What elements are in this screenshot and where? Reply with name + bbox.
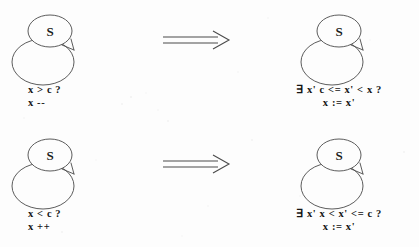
- automaton-rhs: S ∃ x' x < x' <= c ? x := x': [259, 124, 419, 247]
- automaton-rhs: S ∃ x' c <= x' < x ? x := x': [259, 0, 419, 123]
- action-text: x := x': [259, 221, 419, 234]
- transition-annotation: x < c ? x ++: [28, 208, 61, 233]
- state-label: S: [329, 24, 349, 40]
- implies-arrow: [163, 152, 231, 178]
- transition-annotation: x > c ? x --: [28, 84, 61, 109]
- transition-annotation: ∃ x' c <= x' < x ? x := x': [259, 84, 419, 109]
- state-label: S: [40, 24, 60, 40]
- state-label: S: [40, 148, 60, 164]
- guard-text: ∃ x' c <= x' < x ?: [259, 84, 419, 97]
- action-text: x := x': [259, 97, 419, 110]
- action-text: x --: [28, 97, 61, 110]
- state-label: S: [329, 148, 349, 164]
- implies-arrow: [163, 28, 231, 54]
- action-text: x ++: [28, 221, 61, 234]
- diagram-canvas: S x > c ? x -- S ∃ x' c <= x' < x: [0, 0, 419, 247]
- guard-text: x < c ?: [28, 208, 61, 221]
- automaton-lhs: S x < c ? x ++: [0, 124, 160, 247]
- guard-text: x > c ?: [28, 84, 61, 97]
- transformation-rule-row: S x > c ? x -- S ∃ x' c <= x' < x: [0, 0, 419, 123]
- transformation-rule-row: S x < c ? x ++ S ∃ x' x < x' <= c ?: [0, 124, 419, 247]
- guard-text: ∃ x' x < x' <= c ?: [259, 208, 419, 221]
- transition-annotation: ∃ x' x < x' <= c ? x := x': [259, 208, 419, 233]
- automaton-lhs: S x > c ? x --: [0, 0, 160, 123]
